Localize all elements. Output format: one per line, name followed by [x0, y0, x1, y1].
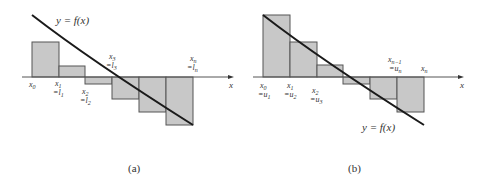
rect-a-2	[59, 66, 85, 77]
tick-b-un: =un	[389, 64, 401, 74]
caption-b: (b)	[348, 162, 361, 175]
curve-label-b: y = f(x)	[361, 121, 395, 134]
caption-a: (a)	[128, 162, 141, 175]
panel-a: y = f(x) x x0 x1 =l1 x2 =l2 x3 =l3 xn =l…	[22, 14, 234, 175]
rect-b-2	[290, 42, 317, 77]
rect-a-6	[166, 77, 193, 125]
axis-arrow-icon	[228, 75, 234, 79]
riemann-sum-diagram: y = f(x) x x0 x1 =l1 x2 =l2 x3 =l3 xn =l…	[0, 0, 484, 188]
rect-a-3	[85, 77, 112, 84]
axis-arrow-icon	[458, 75, 464, 79]
tick-b-u3: =u3	[310, 95, 322, 105]
panel-b: y = f(x) x x0 =u1 x1 =u2 x2 =u3 xn−1 =un…	[253, 15, 464, 175]
tick-b-xn: xn	[420, 64, 428, 74]
tick-b-u1: =u1	[258, 90, 270, 100]
tick-a-l1: =l1	[53, 88, 64, 98]
tick-a-l3: =l3	[106, 61, 117, 71]
rect-b-6	[397, 77, 424, 112]
tick-a-x0: x0	[28, 80, 36, 90]
rect-b-5	[370, 77, 397, 99]
rect-a-1	[32, 42, 59, 77]
tick-a-l2: =l2	[80, 96, 91, 106]
tick-b-u2: =u2	[284, 90, 296, 100]
tick-a-ln: =ln	[187, 63, 198, 73]
rect-b-3	[317, 65, 343, 77]
axis-label-b: x	[459, 80, 464, 90]
rect-a-5	[139, 77, 166, 112]
curve-label-a: y = f(x)	[55, 14, 89, 27]
axis-label-a: x	[228, 80, 233, 90]
